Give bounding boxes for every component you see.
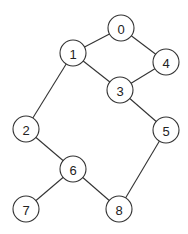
edges-layer bbox=[26, 28, 166, 209]
node-1: 1 bbox=[60, 40, 86, 66]
node-label: 1 bbox=[69, 47, 76, 62]
nodes-layer: 014325678 bbox=[13, 15, 179, 222]
node-label: 4 bbox=[162, 56, 169, 71]
node-label: 2 bbox=[22, 123, 29, 138]
node-3: 3 bbox=[107, 77, 133, 103]
edge-5-8 bbox=[119, 130, 166, 209]
node-label: 6 bbox=[69, 163, 76, 178]
node-4: 4 bbox=[153, 49, 179, 75]
node-label: 0 bbox=[117, 22, 124, 37]
node-label: 3 bbox=[116, 84, 123, 99]
node-label: 7 bbox=[22, 203, 29, 218]
node-label: 8 bbox=[115, 203, 122, 218]
graph-diagram: 014325678 bbox=[0, 0, 188, 234]
node-7: 7 bbox=[13, 196, 39, 222]
node-0: 0 bbox=[108, 15, 134, 41]
node-label: 5 bbox=[162, 124, 169, 139]
node-2: 2 bbox=[13, 116, 39, 142]
node-5: 5 bbox=[153, 117, 179, 143]
node-6: 6 bbox=[60, 156, 86, 182]
node-8: 8 bbox=[106, 196, 132, 222]
